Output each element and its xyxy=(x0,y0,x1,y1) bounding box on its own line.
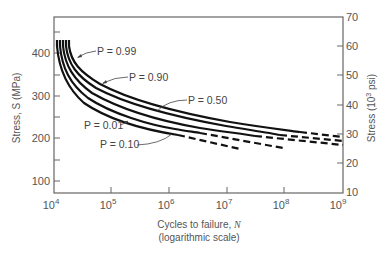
svg-text:200: 200 xyxy=(32,132,50,144)
svg-text:10: 10 xyxy=(346,186,358,198)
x-tick-labels: 104 105 106 107 108 109 xyxy=(43,197,347,211)
label-p001: P = 0.01 xyxy=(84,119,123,131)
right-y-axis-title: Stress (103 psi) xyxy=(365,74,377,142)
label-p010: P = 0.10 xyxy=(100,138,139,150)
curve-p010-dashed xyxy=(200,133,283,148)
sn-curves-dashed xyxy=(178,132,343,149)
label-p099: P = 0.99 xyxy=(97,45,136,57)
x-ticks xyxy=(111,187,284,193)
right-y-tick-labels: 70 60 50 40 30 20 10 xyxy=(346,11,358,198)
svg-text:30: 30 xyxy=(346,128,358,140)
svg-text:70: 70 xyxy=(346,11,358,23)
svg-text:20: 20 xyxy=(346,157,358,169)
svg-text:108: 108 xyxy=(273,197,290,211)
curve-p099-dashed xyxy=(300,132,343,137)
svg-text:300: 300 xyxy=(32,90,50,102)
svg-text:50: 50 xyxy=(346,69,358,81)
left-y-tick-labels: 400 300 200 100 xyxy=(32,47,50,187)
svg-text:106: 106 xyxy=(158,197,175,211)
left-y-axis-title: Stress, S (MPa) xyxy=(11,73,22,144)
svg-text:40: 40 xyxy=(346,99,358,111)
svg-text:105: 105 xyxy=(100,197,117,211)
svg-text:400: 400 xyxy=(32,47,50,59)
label-p090: P = 0.90 xyxy=(129,71,168,83)
svg-text:100: 100 xyxy=(32,175,50,187)
fatigue-sn-chart: 400 300 200 100 70 60 50 40 30 20 10 104… xyxy=(0,0,392,254)
label-p050: P = 0.50 xyxy=(188,94,227,106)
svg-text:104: 104 xyxy=(43,197,60,211)
svg-text:107: 107 xyxy=(216,197,233,211)
x-axis-note: (logarithmic scale) xyxy=(158,232,239,243)
svg-text:109: 109 xyxy=(330,197,347,211)
svg-text:60: 60 xyxy=(346,40,358,52)
curve-p001-dashed xyxy=(178,135,240,149)
x-axis-title: Cycles to failure, N xyxy=(157,219,242,230)
